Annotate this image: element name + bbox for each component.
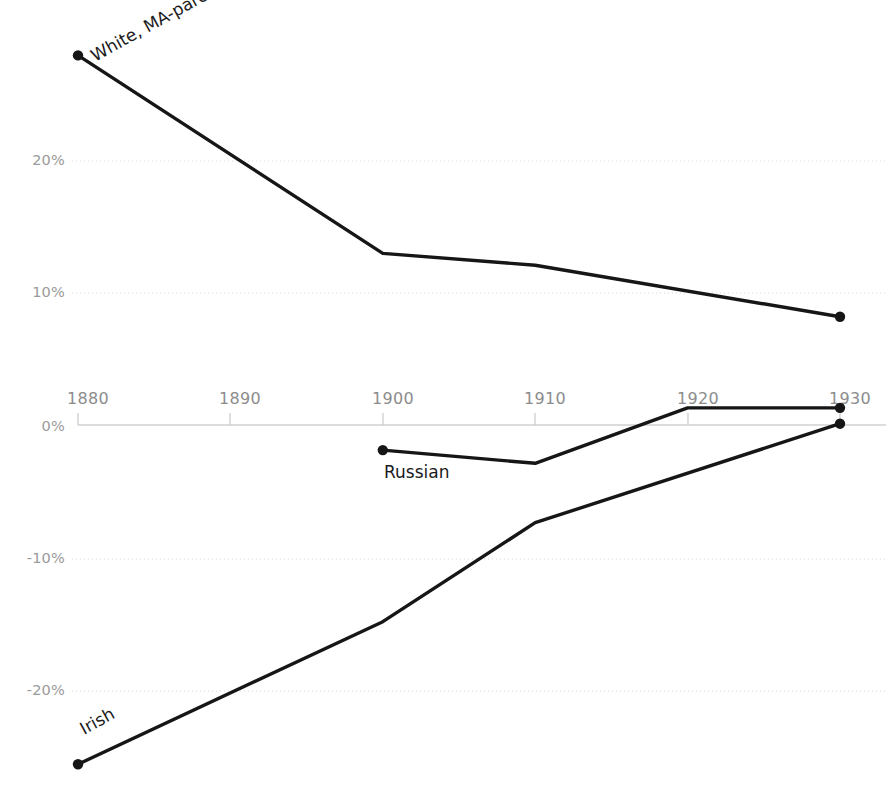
series-point-white-1930[interactable] <box>835 312 845 322</box>
ytick-label-neg10: -10% <box>27 550 65 566</box>
series-point-white-1880[interactable] <box>73 50 83 60</box>
chart-plot-area: 20% 10% 0% -10% -20% 1880 1890 1900 1910… <box>0 0 895 809</box>
series-russian[interactable]: Russian <box>378 403 846 482</box>
xtick-label-1880: 1880 <box>67 389 109 408</box>
series-irish[interactable]: Irish <box>73 418 845 769</box>
series-markers-russian <box>378 403 846 456</box>
series-markers-white <box>73 50 845 322</box>
ytick-label-0: 0% <box>42 418 65 434</box>
xtick-label-1900: 1900 <box>372 389 414 408</box>
series-point-russian-1930[interactable] <box>835 403 845 413</box>
series-label-irish: Irish <box>76 703 117 738</box>
gridlines <box>72 161 886 691</box>
series-point-russian-1900[interactable] <box>378 445 388 455</box>
ytick-label-10: 10% <box>32 284 65 300</box>
ytick-label-20: 20% <box>32 152 65 168</box>
series-line-irish[interactable] <box>78 424 840 765</box>
y-axis-tick-labels: 20% 10% 0% -10% -20% <box>27 152 65 698</box>
xtick-label-1930: 1930 <box>829 389 871 408</box>
series-line-white[interactable] <box>78 55 840 316</box>
series-label-white: White, MA-parentage <box>87 0 254 65</box>
series-point-irish-1880[interactable] <box>73 759 83 769</box>
x-axis-tick-labels: 1880 1890 1900 1910 1920 1930 <box>67 389 871 408</box>
series-label-russian: Russian <box>384 462 449 482</box>
line-chart: 20% 10% 0% -10% -20% 1880 1890 1900 1910… <box>0 0 895 809</box>
series-markers-irish <box>73 418 845 769</box>
series-point-irish-1930[interactable] <box>835 418 845 428</box>
xtick-label-1920: 1920 <box>677 389 719 408</box>
xtick-label-1910: 1910 <box>524 389 566 408</box>
x-axis-zero-line <box>78 413 886 425</box>
ytick-label-neg20: -20% <box>27 682 65 698</box>
xtick-label-1890: 1890 <box>219 389 261 408</box>
series-line-russian[interactable] <box>383 408 840 463</box>
